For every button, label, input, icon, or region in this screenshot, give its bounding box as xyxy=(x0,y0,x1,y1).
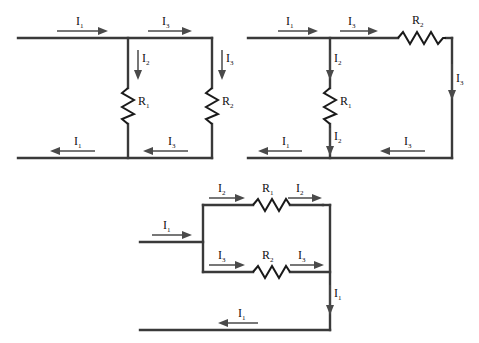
circuit-2-r1-bottom-current: I2 xyxy=(326,128,342,156)
svg-text:I1: I1 xyxy=(74,134,82,150)
circuit-2-right-branch-current: I3 xyxy=(448,64,464,100)
circuit-1-r1-branch-current: I2 xyxy=(134,50,150,80)
resistor-r1-symbol xyxy=(122,88,134,124)
circuit-3-top-branch-in-current: I2 xyxy=(209,181,245,202)
svg-text:I1: I1 xyxy=(282,134,290,150)
svg-text:I1: I1 xyxy=(238,306,246,322)
svg-text:I1: I1 xyxy=(76,14,84,30)
svg-text:I1: I1 xyxy=(334,286,342,302)
svg-text:I3: I3 xyxy=(456,71,464,87)
circuit-3-bottom-return-current: I1 xyxy=(218,306,258,327)
circuit-2-resistor-r2-symbol xyxy=(398,32,446,44)
circuit-1-top-right-current: I3 xyxy=(148,14,192,35)
circuit-3-top-branch-out-current: I2 xyxy=(288,181,322,202)
circuit-2-resistor-r1-label: R1 xyxy=(340,94,352,110)
svg-text:I1: I1 xyxy=(163,218,171,234)
circuit-1-top-left-current: I1 xyxy=(57,14,108,35)
circuit-2-bottom-right-current: I3 xyxy=(380,134,425,155)
svg-text:I3: I3 xyxy=(168,134,176,150)
circuit-1-r2-branch-current: I3 xyxy=(218,50,234,80)
circuit-3-input-current: I1 xyxy=(152,218,192,239)
circuit-diagram-canvas: R1 R2 I1 I3 I2 xyxy=(0,0,479,343)
svg-text:I2: I2 xyxy=(334,129,342,145)
svg-text:I3: I3 xyxy=(298,248,306,264)
svg-text:I3: I3 xyxy=(226,51,234,67)
circuit-2-resistor-r1-symbol xyxy=(324,88,336,124)
circuit-1-bottom-right-current: I3 xyxy=(143,134,188,155)
circuit-2-r1-top-current: I2 xyxy=(326,50,342,80)
svg-text:I3: I3 xyxy=(404,134,412,150)
circuit-3-resistor-r1-label: R1 xyxy=(262,181,274,197)
circuit-3-resistor-r2-symbol xyxy=(253,266,290,278)
svg-text:I2: I2 xyxy=(142,51,150,67)
svg-text:I3: I3 xyxy=(162,14,170,30)
svg-text:I1: I1 xyxy=(286,14,294,30)
resistor-r2-symbol xyxy=(206,88,218,124)
circuit-2-bottom-left-current: I1 xyxy=(258,134,302,155)
svg-text:I3: I3 xyxy=(218,248,226,264)
circuit-3-resistor-r1-symbol xyxy=(253,199,290,211)
circuit-2-top-middle-current: I3 xyxy=(340,14,378,35)
resistor-r1-label: R1 xyxy=(138,94,150,110)
resistor-r2-label: R2 xyxy=(222,94,234,110)
circuit-3-bot-branch-in-current: I3 xyxy=(209,248,245,269)
svg-text:I2: I2 xyxy=(334,51,342,67)
circuit-2: R1 R2 I1 I3 I2 xyxy=(248,13,464,158)
circuit-2-resistor-r2-label: R2 xyxy=(412,13,424,29)
svg-text:I2: I2 xyxy=(218,181,226,197)
circuit-3-right-return-current: I1 xyxy=(326,285,342,315)
svg-text:I3: I3 xyxy=(348,14,356,30)
circuit-3-bot-branch-out-current: I3 xyxy=(290,248,324,269)
circuit-1: R1 R2 I1 I3 I2 xyxy=(18,14,234,158)
circuit-1-bottom-left-current: I1 xyxy=(50,134,95,155)
circuit-3-resistor-r2-label: R2 xyxy=(262,248,274,264)
circuit-3: R1 R2 I1 I2 xyxy=(140,181,342,330)
svg-text:I2: I2 xyxy=(296,181,304,197)
circuit-2-top-left-current: I1 xyxy=(278,14,318,35)
